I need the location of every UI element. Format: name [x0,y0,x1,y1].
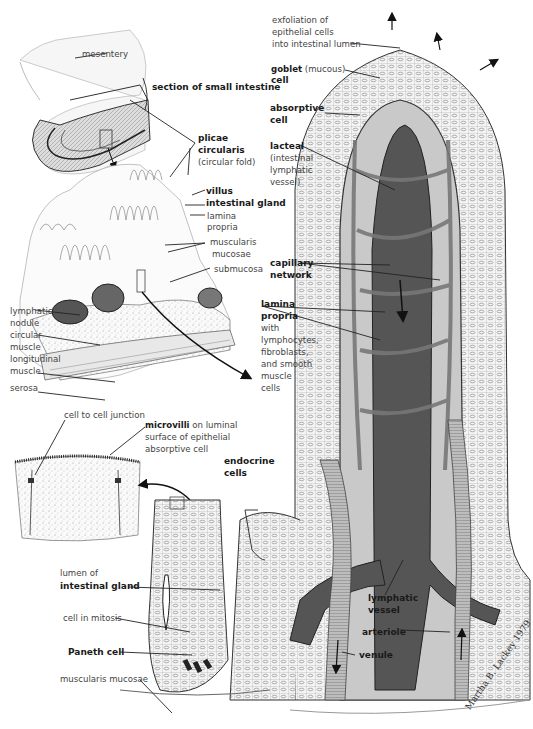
label-lymphatic-vessel: lymphatic [368,593,418,604]
label-lp-lymphocytes: lymphocytes, [261,335,319,346]
label-absorptive: absorptive [270,103,324,114]
label-muscularis: muscularis [210,237,257,248]
label-goblet-cell: goblet (mucous) [271,64,345,75]
label-cell-junction: cell to cell junction [64,410,145,421]
label-paneth-cell: Paneth cell [68,647,124,658]
label-lymphatic-vessel-2: vessel [368,605,400,616]
label-absorptive-cell: cell [270,115,288,126]
label-lacteal: lacteal [270,141,304,152]
label-longitudinal: longitudinal [10,354,61,365]
label-microvilli: microvilli on luminal [145,420,237,431]
label-intestinal-gland-lumen: intestinal gland [60,581,140,592]
label-endocrine-cells: cells [224,468,247,479]
goblet-mucous: (mucous) [305,64,345,74]
label-network: network [270,270,312,281]
label-lp-smooth: and smooth [261,359,312,370]
label-propria: propria [207,222,238,233]
label-circular-fold: (circular fold) [198,157,255,168]
label-lp-muscle: muscle [261,371,292,382]
label-exfoliation-3: into intestinal lumen [272,39,361,50]
label-lp-cells: cells [261,383,280,394]
label-lacteal-3: vessel) [270,177,300,188]
label-exfoliation-2: epithelial cells [272,27,334,38]
label-villus: villus [206,186,233,197]
label-venule: venule [359,650,393,661]
label-lacteal-2: lymphatic [270,165,313,176]
label-microvilli-2: surface of epithelial [145,432,230,443]
label-nodule: nodule [10,318,39,329]
label-serosa: serosa [10,383,38,394]
label-circularis: circularis [198,145,245,156]
label-intestinal-gland: intestinal gland [206,198,286,209]
label-longitudinal-muscle: muscle [10,366,41,377]
label-circular: circular [10,330,42,341]
label-lp-fibroblasts: fibroblasts, [261,347,309,358]
label-section-small-intestine: section of small intestine [152,82,280,93]
label-mesentery: mesentery [82,49,128,60]
label-exfoliation-1: exfoliation of [272,15,328,26]
label-endocrine: endocrine [224,456,275,467]
label-muscularis-mucosae-bottom: muscularis mucosae [60,674,148,685]
label-cell-mitosis: cell in mitosis [63,613,122,624]
label-lymphatic: lymphatic [10,306,53,317]
label-lamina: lamina [207,211,236,222]
label-circular-muscle: muscle [10,342,41,353]
label-lp-with: with [261,323,279,334]
microvilli-text: on luminal [192,420,237,430]
label-submucosa: submucosa [214,264,263,275]
label-microvilli-3: absorptive cell [145,444,208,455]
label-goblet-cell-2: cell [271,75,289,86]
label-propria-right: propria [261,311,298,322]
label-lacteal-1: (intestinal [270,153,313,164]
label-capillary: capillary [270,258,313,269]
label-arteriole: arteriole [362,627,406,638]
microvilli-bold: microvilli [145,420,190,430]
label-plicae: plicae [198,133,228,144]
label-lumen-of: lumen of [60,568,98,579]
goblet-bold: goblet [271,64,302,74]
label-lamina-right: lamina [261,299,295,310]
label-mucosae: mucosae [212,249,251,260]
